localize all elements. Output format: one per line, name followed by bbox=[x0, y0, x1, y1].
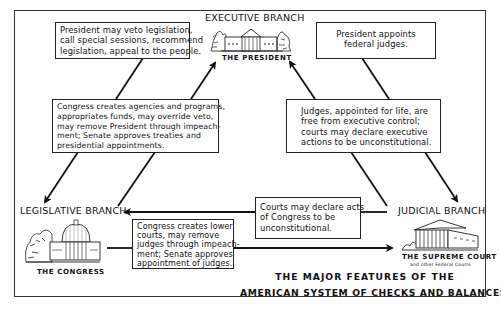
box-line: of Congress to be bbox=[260, 212, 356, 222]
box-line: federal judges. bbox=[321, 39, 431, 49]
box-line: President may veto legislation, bbox=[60, 25, 185, 35]
box-line: may remove President through impeach- bbox=[57, 122, 214, 132]
capitol-building-icon bbox=[22, 218, 102, 266]
check-box-congress-creates-lower-courts: Congress creates lower courts, may remov… bbox=[132, 219, 234, 269]
box-line: Courts may declare acts bbox=[260, 202, 356, 212]
legislative-branch-label: LEGISLATIVE BRANCH bbox=[20, 205, 127, 216]
box-line: ment; Senate approves treaties and bbox=[57, 131, 214, 141]
check-box-congress-creates-agencies: Congress creates agencies and programs, … bbox=[52, 99, 219, 153]
diagram-title-line-2: AMERICAN SYSTEM OF CHECKS AND BALANCES bbox=[240, 287, 492, 298]
box-line: President appoints bbox=[321, 29, 431, 39]
box-line: courts, may remove bbox=[137, 231, 229, 240]
box-line: ment; Senate approves bbox=[137, 250, 229, 259]
box-line: legislation, appeal to the people. bbox=[60, 46, 185, 56]
box-line: free from executive control; bbox=[301, 116, 432, 126]
box-line: call special sessions, recommend bbox=[60, 35, 185, 45]
check-box-judges-appointed-for-life: Judges, appointed for life, are free fro… bbox=[286, 99, 441, 153]
check-box-courts-declare-acts: Courts may declare acts of Congress to b… bbox=[255, 197, 361, 239]
judicial-branch-subcaption: and other Federal Courts bbox=[410, 262, 471, 267]
white-house-icon bbox=[209, 25, 293, 53]
check-box-president-appoints: President appoints federal judges. bbox=[316, 22, 436, 59]
check-box-president-veto: President may veto legislation, call spe… bbox=[55, 22, 190, 59]
box-line: Congress creates lower bbox=[137, 222, 229, 231]
box-line: appointment of judges. bbox=[137, 259, 229, 268]
box-line: courts may declare executive bbox=[301, 127, 432, 137]
executive-branch-label: EXECUTIVE BRANCH bbox=[205, 12, 305, 23]
box-line: unconstitutional. bbox=[260, 223, 356, 233]
judicial-branch-caption: THE SUPREME COURT bbox=[402, 253, 497, 261]
box-line: actions to be unconstitutional. bbox=[301, 137, 432, 147]
box-line: Judges, appointed for life, are bbox=[301, 106, 432, 116]
box-line: judges through impeach- bbox=[137, 240, 229, 249]
diagram-title-line-1: THE MAJOR FEATURES OF THE bbox=[250, 271, 480, 282]
box-line: presidential appointments. bbox=[57, 141, 214, 151]
legislative-branch-caption: THE CONGRESS bbox=[37, 268, 105, 276]
judicial-branch-label: JUDICIAL BRANCH bbox=[398, 205, 485, 216]
box-line: Congress creates agencies and programs, bbox=[57, 102, 214, 112]
executive-branch-caption: THE PRESIDENT bbox=[222, 54, 292, 62]
supreme-court-building-icon bbox=[400, 218, 480, 254]
box-line: appropriates funds, may override veto, bbox=[57, 112, 214, 122]
